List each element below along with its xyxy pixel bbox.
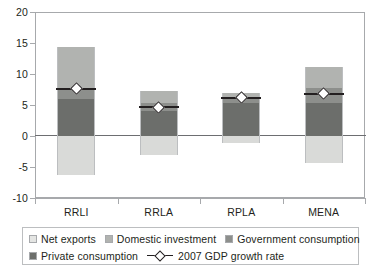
y-axis-tick-label: -10 [2, 193, 28, 204]
legend-item-net-exports: Net exports [29, 233, 96, 245]
y-axis-tick [30, 12, 36, 13]
bar-group-mena[interactable] [305, 12, 343, 198]
y-axis-tick-label: 15 [2, 38, 28, 49]
legend-row-1: Net exports Domestic investment Governme… [29, 230, 354, 247]
y-axis-tick-label: -5 [2, 162, 28, 173]
x-axis-tick [365, 199, 366, 204]
stacked-bar-chart: 20 15 10 5 0 -5 -10 RRLIRRLARPLAMENA Net… [0, 0, 379, 271]
legend-item-gdp-growth-rate: 2007 GDP growth rate [147, 250, 284, 262]
legend-swatch-net-exports-icon [29, 235, 37, 243]
legend-label: Domestic investment [117, 233, 216, 245]
legend-item-private-consumption: Private consumption [29, 250, 138, 262]
x-axis-tick [200, 199, 201, 204]
y-axis-tick [30, 74, 36, 75]
bar-segment-net-exports[interactable] [222, 136, 260, 143]
x-axis-tick [118, 199, 119, 204]
y-axis-tick [30, 167, 36, 168]
bar-group-rrla[interactable] [140, 12, 178, 198]
x-axis-label-rrli: RRLI [35, 206, 118, 218]
bar-group-rpla[interactable] [222, 12, 260, 198]
legend-label: Private consumption [41, 250, 138, 262]
bar-segment-domestic-investment[interactable] [305, 67, 343, 88]
bar-segment-net-exports[interactable] [57, 136, 95, 175]
y-axis-tick [30, 105, 36, 106]
legend-label: Government consumption [237, 233, 359, 245]
y-axis-tick-label: 5 [2, 100, 28, 111]
diamond-marker-icon [147, 251, 173, 261]
legend-swatch-government-consumption-icon [225, 235, 233, 243]
x-axis-tick [283, 199, 284, 204]
bar-segment-private-consumption[interactable] [305, 103, 343, 136]
legend-label: Net exports [41, 233, 96, 245]
y-axis-tick-label: 20 [2, 7, 28, 18]
bar-segment-net-exports[interactable] [140, 136, 178, 155]
x-axis-label-rpla: RPLA [200, 206, 283, 218]
bar-segment-private-consumption[interactable] [57, 99, 95, 136]
y-axis-labels: 20 15 10 5 0 -5 -10 [0, 0, 28, 186]
legend: Net exports Domestic investment Governme… [22, 227, 359, 265]
legend-item-government-consumption: Government consumption [225, 233, 359, 245]
y-axis-tick-label: 10 [2, 69, 28, 80]
legend-row-2: Private consumption 2007 GDP growth rate [29, 247, 354, 264]
legend-item-domestic-investment: Domestic investment [105, 233, 216, 245]
legend-swatch-private-consumption-icon [29, 252, 37, 260]
legend-label: 2007 GDP growth rate [178, 250, 284, 262]
bar-segment-private-consumption[interactable] [140, 111, 178, 136]
y-axis-tick [30, 43, 36, 44]
x-axis-tick [35, 199, 36, 204]
y-axis-tick-label: 0 [2, 131, 28, 142]
x-axis-label-rrla: RRLA [118, 206, 201, 218]
bar-segment-net-exports[interactable] [305, 136, 343, 163]
y-axis-tick [30, 136, 36, 137]
bar-group-rrli[interactable] [57, 12, 95, 198]
bar-segment-private-consumption[interactable] [222, 103, 260, 136]
x-axis-label-mena: MENA [283, 206, 366, 218]
legend-swatch-domestic-investment-icon [105, 235, 113, 243]
